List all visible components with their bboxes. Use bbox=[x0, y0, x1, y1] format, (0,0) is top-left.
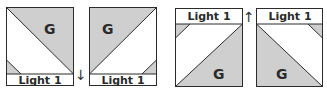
strip-label: Light 1 bbox=[101, 74, 144, 87]
block-panel-4: G Light 1 bbox=[256, 8, 324, 87]
arrow-up-icon: ↑ bbox=[243, 10, 255, 24]
fabric-label-g: G bbox=[213, 66, 225, 82]
strip-label: Light 1 bbox=[18, 74, 61, 87]
block-panel-3: G Light 1 bbox=[175, 8, 243, 87]
fabric-label-g: G bbox=[276, 66, 288, 82]
strip-label: Light 1 bbox=[187, 10, 230, 23]
block-panel-1: G Light 1 bbox=[6, 7, 74, 86]
fabric-label-g: G bbox=[102, 21, 114, 37]
block-panel-2: G Light 1 bbox=[89, 7, 157, 86]
fabric-label-g: G bbox=[44, 21, 56, 37]
strip-label: Light 1 bbox=[268, 10, 311, 23]
arrow-down-icon: ↓ bbox=[75, 68, 87, 82]
